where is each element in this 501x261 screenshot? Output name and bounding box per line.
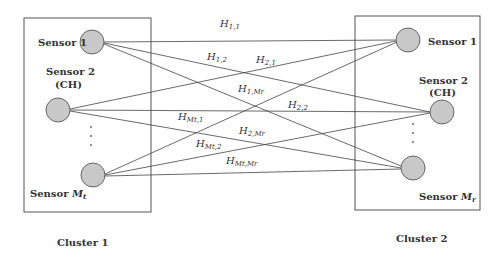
cluster-2-sensor-2-node[interactable] [430,100,454,124]
channel-links [70,40,430,176]
link-1-1 [104,40,396,42]
cluster-2-label: Cluster 2 [396,233,447,244]
cluster-2-sensor-2-label: Sensor 2 [419,75,468,86]
channel-label-H21: H2,1 [255,54,276,67]
channel-label-HMM: HMt,Mr [225,155,258,168]
cluster-1-sensor-M-label: Sensor Mt [30,188,87,201]
channel-label-HM2: HMt,2 [195,138,222,151]
mimo-cluster-diagram: Sensor 1 Sensor 2 (CH) Sensor Mt Cluster… [0,0,501,261]
cluster-1-label: Cluster 1 [57,237,108,248]
link-M-2 [105,113,430,175]
channel-label-H1M: H1,Mr [237,83,265,96]
link-M-1 [105,42,397,174]
link-1-M [104,44,401,166]
cluster-2-sensor-1-node[interactable] [396,28,420,52]
link-1-2 [104,43,430,112]
link-M-M [105,169,401,176]
cluster-1-sensor-2-role: (CH) [55,79,82,90]
link-2-1 [70,41,396,109]
cluster-1-ellipsis [90,126,92,146]
channel-label-HM1: HMt,1 [177,111,203,124]
channel-label-H12: H1,2 [206,51,227,64]
cluster-2-ellipsis [412,123,414,143]
channel-label-H22: H2,2 [287,99,308,112]
cluster-2-sensor-2-role: (CH) [429,87,456,98]
cluster-2-sensor-M-node[interactable] [401,156,425,180]
cluster-2-sensor-1-label: Sensor 1 [428,36,477,47]
cluster-1-sensor-M-node[interactable] [81,163,105,187]
link-2-2 [70,110,430,112]
cluster-1-sensor-1-label: Sensor 1 [38,37,87,48]
cluster-1-sensor-2-node[interactable] [46,98,70,122]
cluster-1-sensor-2-label: Sensor 2 [46,66,95,77]
channel-label-H11: H1,1 [219,18,240,31]
cluster-2-sensor-M-label: Sensor Mr [419,191,477,204]
channel-label-H2M: H2,Mr [238,125,266,138]
